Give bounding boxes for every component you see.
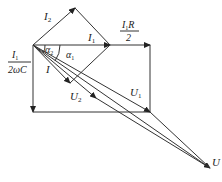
label-i2: I2 [43, 10, 52, 24]
phasor-diagram: I2 I1 I1R 2 I1 2ωC α2 α1 I U2 U1 U [0, 0, 222, 182]
label-i1r-denominator: 2 [126, 32, 131, 43]
label-i1: I1 [87, 31, 96, 45]
label-u: U [212, 156, 221, 168]
label-alpha1: α1 [66, 49, 74, 61]
vector-u [33, 45, 210, 168]
u2-to-u-line [96, 98, 210, 168]
label-cap-denominator: 2ωC [8, 64, 27, 75]
label-i1r-numerator: I1R [121, 19, 134, 31]
label-u2: U2 [70, 90, 82, 104]
label-i: I [45, 63, 51, 75]
vector-u2 [33, 45, 96, 98]
label-u1: U1 [130, 86, 142, 100]
label-alpha2: α2 [45, 44, 53, 56]
label-cap-numerator: I1 [11, 49, 18, 61]
u1-to-u-line [150, 112, 210, 168]
vector-i2 [33, 8, 75, 45]
